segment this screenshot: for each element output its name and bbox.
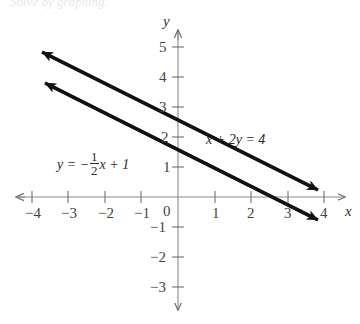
x-tick-label-3: 3 bbox=[284, 206, 292, 221]
x-axis-label: x bbox=[345, 204, 352, 219]
y-tick-label-neg2: −2 bbox=[150, 250, 166, 265]
y-tick-label-neg3: −3 bbox=[150, 280, 166, 295]
y-tick-label-3: 3 bbox=[159, 100, 167, 115]
y-tick-label-5: 5 bbox=[159, 40, 167, 55]
graph-figure: Solve by graphing. bbox=[0, 0, 360, 324]
y-tick-label-1: 1 bbox=[163, 160, 171, 175]
y-tick-label-2: 2 bbox=[161, 130, 169, 145]
x-tick-label-4: 4 bbox=[320, 206, 328, 221]
x-tick-label-2: 2 bbox=[247, 206, 255, 221]
y-axis-label: y bbox=[163, 14, 170, 29]
x-tick-label-1: 1 bbox=[212, 206, 220, 221]
x-axis bbox=[16, 191, 345, 203]
y-tick-label-4: 4 bbox=[159, 70, 167, 85]
x-tick-label-neg2: −2 bbox=[98, 206, 114, 221]
fraction-denominator: 2 bbox=[90, 164, 99, 177]
equation-label-upper-line: x + 2y = 4 bbox=[206, 133, 265, 147]
fraction-one-half: 12 bbox=[90, 150, 99, 178]
x-tick-label-neg1: −1 bbox=[134, 206, 150, 221]
y-tick-label-neg1: −1 bbox=[150, 220, 166, 235]
x-tick-label-neg3: −3 bbox=[61, 206, 77, 221]
fraction-numerator: 1 bbox=[90, 150, 99, 164]
y-axis bbox=[172, 30, 184, 310]
equation-rhs: x + 1 bbox=[100, 157, 130, 172]
origin-label: 0 bbox=[163, 204, 171, 219]
equation-lhs: y = − bbox=[57, 157, 89, 172]
equation-label-lower-line: y = −12x + 1 bbox=[57, 150, 129, 178]
coordinate-plane bbox=[0, 0, 360, 324]
x-tick-label-neg4: −4 bbox=[25, 206, 41, 221]
